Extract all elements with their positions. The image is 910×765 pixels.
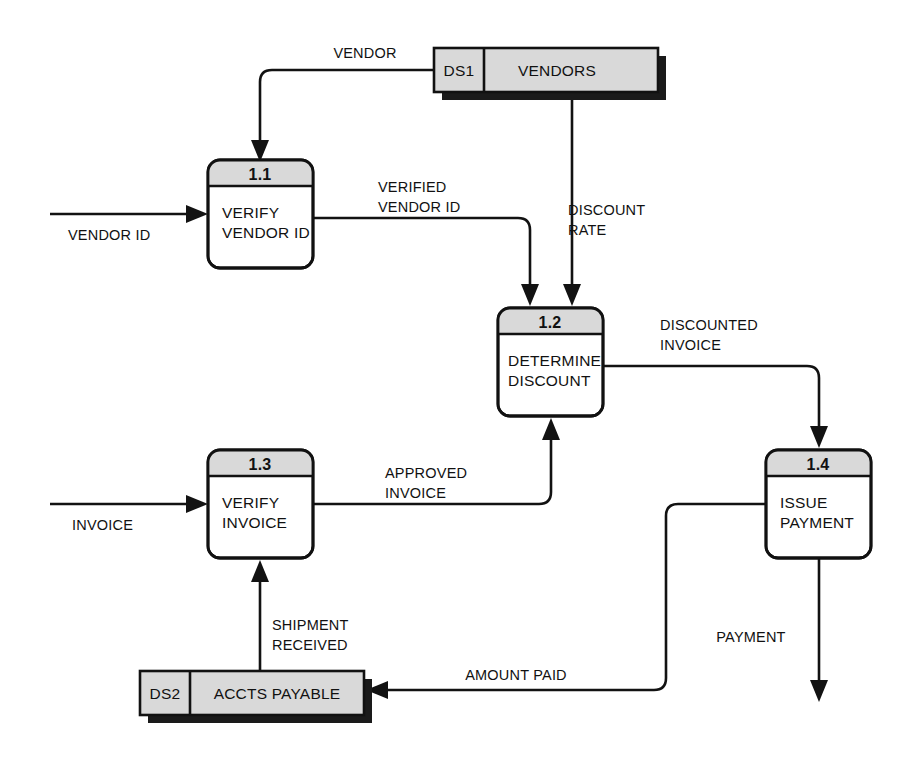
- flow-verified-vendor-id-arrowhead: [521, 284, 539, 306]
- flow-vendor-id-label: VENDOR ID: [68, 227, 150, 243]
- flow-shipment-received-label-2: RECEIVED: [272, 637, 348, 653]
- flow-payment: PAYMENT: [716, 558, 828, 702]
- process-1-4-number: 1.4: [807, 456, 830, 473]
- flow-verified-vendor-id-line: [313, 218, 530, 288]
- flow-vendor: VENDOR: [251, 45, 434, 162]
- flow-discounted-invoice: DISCOUNTED INVOICE: [603, 317, 828, 448]
- ds2-name-label: ACCTS PAYABLE: [214, 685, 341, 702]
- process-1-3[interactable]: 1.3 VERIFY INVOICE: [208, 450, 313, 558]
- flow-discount-rate: DISCOUNT RATE: [563, 92, 645, 306]
- process-1-2[interactable]: 1.2 DETERMINE DISCOUNT: [498, 308, 603, 416]
- flow-discount-rate-arrowhead: [563, 284, 581, 306]
- flow-discounted-invoice-line: [603, 366, 819, 430]
- flow-vendor-label: VENDOR: [333, 45, 396, 61]
- dfd-canvas: VENDOR VENDOR ID VERIFIED VENDOR ID DISC…: [0, 0, 910, 765]
- process-1-3-number: 1.3: [249, 456, 272, 473]
- flow-approved-invoice: APPROVED INVOICE: [313, 418, 560, 504]
- flow-discount-rate-label-1: DISCOUNT: [568, 202, 645, 218]
- process-1-1-label-1: VERIFY: [222, 204, 279, 221]
- flow-verified-vendor-id-label-2: VENDOR ID: [378, 199, 460, 215]
- process-1-1[interactable]: 1.1 VERIFY VENDOR ID: [208, 160, 313, 268]
- flow-approved-invoice-arrowhead: [542, 418, 560, 440]
- flow-invoice-label: INVOICE: [72, 517, 133, 533]
- process-1-2-label-2: DISCOUNT: [508, 372, 591, 389]
- ds1-id-label: DS1: [444, 62, 475, 79]
- flow-approved-invoice-label-2: INVOICE: [385, 485, 446, 501]
- process-1-3-label-2: INVOICE: [222, 514, 287, 531]
- flow-discounted-invoice-label-2: INVOICE: [660, 337, 721, 353]
- process-1-1-number: 1.1: [249, 166, 272, 183]
- flow-invoice-arrowhead: [186, 495, 208, 513]
- flow-amount-paid-line: [384, 504, 766, 690]
- flow-approved-invoice-label-1: APPROVED: [385, 465, 467, 481]
- data-store-ds1[interactable]: DS1 VENDORS: [434, 48, 666, 100]
- flow-vendor-line: [260, 70, 434, 146]
- flow-shipment-received: SHIPMENT RECEIVED: [251, 560, 349, 671]
- flow-invoice: INVOICE: [50, 495, 208, 533]
- flow-vendor-id-arrowhead: [186, 205, 208, 223]
- flow-discount-rate-label-2: RATE: [568, 222, 607, 238]
- process-1-2-number: 1.2: [539, 314, 562, 331]
- process-1-4[interactable]: 1.4 ISSUE PAYMENT: [766, 450, 871, 558]
- flow-amount-paid: AMOUNT PAID: [366, 504, 766, 699]
- data-flow-diagram: VENDOR VENDOR ID VERIFIED VENDOR ID DISC…: [0, 0, 910, 765]
- ds2-id-label: DS2: [150, 685, 181, 702]
- flow-verified-vendor-id: VERIFIED VENDOR ID: [313, 179, 539, 306]
- flow-vendor-id: VENDOR ID: [50, 205, 208, 243]
- flow-payment-label: PAYMENT: [716, 629, 785, 645]
- process-1-4-label-2: PAYMENT: [780, 514, 854, 531]
- flow-shipment-received-arrowhead: [251, 560, 269, 582]
- flow-verified-vendor-id-label-1: VERIFIED: [378, 179, 446, 195]
- process-1-4-label-1: ISSUE: [780, 494, 828, 511]
- flow-discounted-invoice-label-1: DISCOUNTED: [660, 317, 758, 333]
- data-store-ds2[interactable]: DS2 ACCTS PAYABLE: [140, 671, 372, 723]
- flow-shipment-received-label-1: SHIPMENT: [272, 617, 349, 633]
- flow-amount-paid-label: AMOUNT PAID: [465, 667, 567, 683]
- process-1-3-label-1: VERIFY: [222, 494, 279, 511]
- ds1-name-label: VENDORS: [518, 62, 596, 79]
- flow-payment-arrowhead: [810, 680, 828, 702]
- process-1-2-label-1: DETERMINE: [508, 352, 601, 369]
- flow-discounted-invoice-arrowhead: [810, 426, 828, 448]
- process-1-1-label-2: VENDOR ID: [222, 224, 310, 241]
